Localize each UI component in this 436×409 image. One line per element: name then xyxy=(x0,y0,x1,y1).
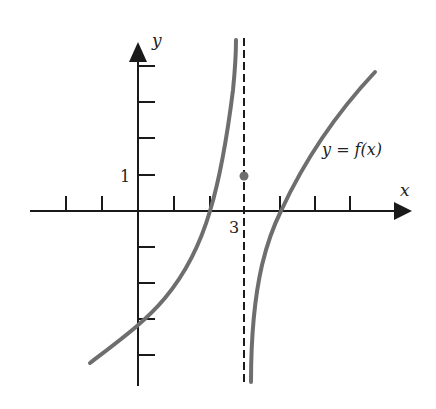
x-axis-label: x xyxy=(400,180,410,200)
y-tick-label-1: 1 xyxy=(120,167,130,186)
y-axis-arrow-icon xyxy=(129,42,147,62)
isolated-point xyxy=(240,172,249,181)
x-tick-label-3: 3 xyxy=(229,218,239,237)
x-axis-arrow-icon xyxy=(394,202,412,220)
curve-label: y = f(x) xyxy=(321,140,382,159)
y-axis-label: y xyxy=(151,30,162,50)
curve-right-branch xyxy=(251,72,375,382)
x-ticks xyxy=(66,196,350,211)
graph-figure: y x 1 3 y = f(x) xyxy=(0,0,436,409)
curve-left-branch xyxy=(90,40,236,363)
